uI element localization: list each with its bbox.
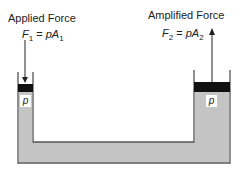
amplified-force-label: Amplified Force [148, 9, 224, 21]
fluid [19, 92, 229, 162]
left-pressure-label: p [20, 95, 31, 107]
hydraulic-diagram [0, 0, 240, 172]
arrow-down-icon [22, 77, 28, 83]
right-piston [194, 82, 230, 92]
container-inner-wall [33, 70, 194, 142]
arrow-up-icon [209, 28, 215, 35]
applied-force-equation: F1 = pA1 [22, 28, 64, 43]
applied-force-label: Applied Force [8, 12, 76, 24]
left-piston [18, 84, 33, 92]
amplified-force-equation: F2 = pA2 [162, 27, 204, 42]
right-pressure-label: p [206, 95, 217, 107]
